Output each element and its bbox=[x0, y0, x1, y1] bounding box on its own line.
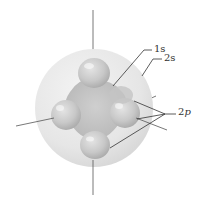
label-2p-letter: p bbox=[184, 106, 190, 117]
orbital-2p-lobe-left bbox=[51, 100, 81, 130]
label-2s: 2s bbox=[164, 53, 176, 63]
orbital-2p-lobe-upper-right bbox=[109, 86, 133, 104]
leader-2s bbox=[142, 59, 162, 76]
orbital-diagram: 1s 2s 2p bbox=[0, 0, 197, 207]
orbital-illustration bbox=[0, 0, 197, 207]
orbital-2p-lobe-top bbox=[78, 58, 110, 88]
orbital-2p-lobe-bottom bbox=[80, 131, 110, 159]
label-2p: 2p bbox=[178, 107, 191, 117]
